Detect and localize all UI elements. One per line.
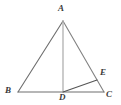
vertex-label-b: B — [5, 86, 11, 95]
vertex-label-d: D — [59, 93, 66, 102]
vertex-label-c: C — [106, 90, 112, 99]
geometry-canvas — [0, 0, 121, 105]
vertex-label-a: A — [58, 4, 64, 13]
segment-AB — [18, 21, 63, 92]
segment-DE — [63, 80, 97, 92]
geometry-figure: A B C D E — [0, 0, 121, 105]
segment-AC — [63, 21, 104, 92]
vertex-label-e: E — [100, 68, 106, 77]
